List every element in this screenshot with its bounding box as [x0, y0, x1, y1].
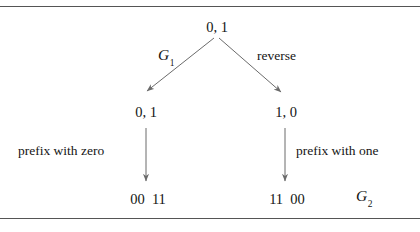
- edge-label-reverse: reverse: [257, 49, 296, 63]
- tree-leaf-right: 11 00: [269, 192, 305, 207]
- annotation-label-g2: G2: [356, 188, 372, 208]
- figure-container: 0, 1 G1 reverse 0, 1 1, 0 prefix with ze…: [0, 0, 420, 232]
- annotation-label-g2-base: G: [356, 187, 367, 204]
- tree-node-left: 0, 1: [135, 105, 157, 120]
- top-horizontal-rule: [0, 6, 420, 7]
- tree-node-right: 1, 0: [275, 105, 297, 120]
- annotation-label-g2-subscript: 2: [368, 199, 373, 209]
- tree-node-root: 0, 1: [206, 20, 228, 35]
- tree-leaf-left: 00 11: [130, 192, 166, 207]
- edge-label-g1-base: G: [158, 46, 169, 63]
- edge-label-g1-subscript: 1: [170, 58, 175, 68]
- edge-label-g1: G1: [158, 47, 174, 67]
- edge-label-prefix-zero: prefix with zero: [18, 144, 104, 158]
- edge-label-prefix-one: prefix with one: [296, 144, 378, 158]
- bottom-horizontal-rule: [0, 218, 420, 219]
- arrow-root-to-right: [219, 38, 281, 92]
